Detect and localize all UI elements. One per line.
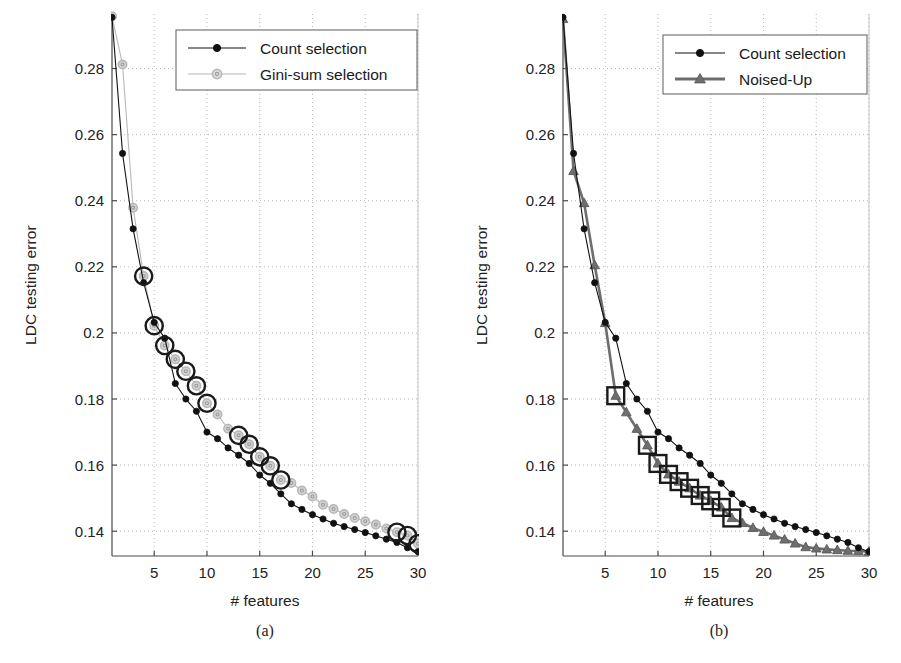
y-tick-label: 0.2 bbox=[534, 324, 555, 341]
y-tick-label: 0.24 bbox=[75, 192, 104, 209]
x-tick-label: 20 bbox=[755, 564, 772, 581]
plot-a: 510152025300.140.160.180.20.220.240.260.… bbox=[0, 0, 450, 600]
x-tick-label: 5 bbox=[601, 564, 609, 581]
y-tick-label: 0.26 bbox=[75, 126, 104, 143]
panel-caption-b: (b) bbox=[565, 622, 873, 640]
y-tick-label: 0.18 bbox=[75, 391, 104, 408]
y-tick-label: 0.16 bbox=[75, 457, 104, 474]
y-tick-label: 0.24 bbox=[526, 192, 555, 209]
figure-root: 510152025300.140.160.180.20.220.240.260.… bbox=[0, 0, 901, 663]
y-tick-label: 0.18 bbox=[526, 391, 555, 408]
plot-b: 510152025300.140.160.180.20.220.240.260.… bbox=[451, 0, 901, 600]
x-tick-label: 20 bbox=[304, 564, 321, 581]
x-tick-label: 15 bbox=[702, 564, 719, 581]
x-tick-label: 10 bbox=[199, 564, 216, 581]
y-tick-label: 0.16 bbox=[526, 457, 555, 474]
y-tick-label: 0.14 bbox=[75, 523, 104, 540]
y-tick-label: 0.28 bbox=[526, 60, 555, 77]
x-tick-label: 25 bbox=[357, 564, 374, 581]
x-axis-label-b: # features bbox=[565, 592, 873, 610]
x-tick-label: 25 bbox=[808, 564, 825, 581]
y-tick-label: 0.2 bbox=[83, 324, 104, 341]
x-tick-label: 10 bbox=[650, 564, 667, 581]
panel-a: 510152025300.140.160.180.20.220.240.260.… bbox=[0, 0, 450, 663]
y-tick-label: 0.28 bbox=[75, 60, 104, 77]
x-tick-label: 15 bbox=[251, 564, 268, 581]
y-axis-label-b: LDC testing error bbox=[473, 225, 491, 345]
legend-item-label: Noised-Up bbox=[739, 71, 812, 88]
x-tick-label: 30 bbox=[861, 564, 878, 581]
legend-item-label: Count selection bbox=[260, 40, 367, 57]
x-axis-label-a: # features bbox=[112, 592, 418, 610]
y-tick-label: 0.22 bbox=[526, 258, 555, 275]
y-tick-label: 0.26 bbox=[526, 126, 555, 143]
panel-b: 510152025300.140.160.180.20.220.240.260.… bbox=[451, 0, 901, 663]
y-tick-label: 0.22 bbox=[75, 258, 104, 275]
legend-item-label: Count selection bbox=[739, 45, 846, 62]
legend-item-label: Gini-sum selection bbox=[260, 66, 388, 83]
x-tick-label: 5 bbox=[150, 564, 158, 581]
x-tick-label: 30 bbox=[410, 564, 427, 581]
y-axis-label-a: LDC testing error bbox=[22, 225, 40, 345]
panel-caption-a: (a) bbox=[112, 622, 418, 640]
y-tick-label: 0.14 bbox=[526, 523, 555, 540]
